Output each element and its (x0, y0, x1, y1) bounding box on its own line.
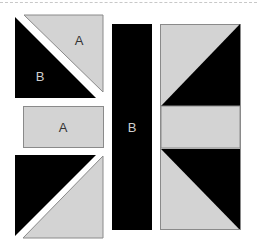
center-strip-unit: B (112, 24, 152, 230)
right-column-unit (161, 24, 241, 230)
middle-left-rect-unit: A (24, 107, 104, 148)
top-left-hst-unit: A B (15, 15, 103, 98)
label-a-middle: A (59, 120, 68, 135)
bottom-left-hst-unit (15, 155, 103, 238)
label-a-top: A (75, 33, 84, 48)
label-b-center: B (128, 120, 137, 135)
right-middle-light-band (161, 106, 240, 148)
label-b-top: B (36, 69, 45, 84)
quilt-diagram: A B A B (0, 0, 257, 251)
